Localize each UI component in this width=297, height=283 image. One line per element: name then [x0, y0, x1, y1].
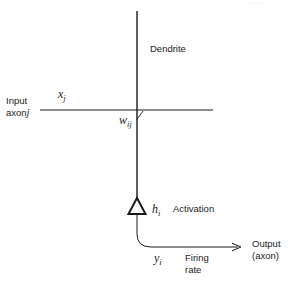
- math-symbol-weight-w: wij: [119, 114, 132, 130]
- math-symbol-input-x: xj: [58, 88, 66, 104]
- label-input-line2: axon: [6, 107, 27, 118]
- math-w-base: w: [119, 113, 127, 127]
- label-dendrite: Dendrite: [150, 43, 186, 55]
- math-h-subscript: i: [158, 208, 160, 218]
- math-x-subscript: j: [63, 93, 65, 103]
- neuron-diagram: neuron Dendrite Input axonj Activation F…: [0, 0, 297, 283]
- math-w-subscript: ij: [127, 119, 132, 129]
- label-firing-line1: Firing: [185, 252, 209, 263]
- activation-triangle-icon: [129, 198, 146, 214]
- label-input-line1: Input: [6, 95, 27, 106]
- label-firing-line2: rate: [185, 264, 201, 275]
- label-output-line2: (axon): [252, 250, 279, 261]
- math-symbol-output-y: yi: [154, 252, 162, 268]
- label-output-line1: Output: [252, 238, 281, 249]
- label-input-axon-index: j: [27, 107, 30, 118]
- watermark-text: neuron: [247, 0, 266, 6]
- label-firing-rate: Firing rate: [185, 252, 209, 275]
- math-symbol-activation-h: hi: [152, 203, 160, 219]
- label-output-axon: Output (axon): [252, 238, 281, 261]
- label-input-axon: Input axonj: [6, 95, 30, 118]
- label-activation: Activation: [173, 203, 214, 215]
- math-y-subscript: i: [159, 257, 161, 267]
